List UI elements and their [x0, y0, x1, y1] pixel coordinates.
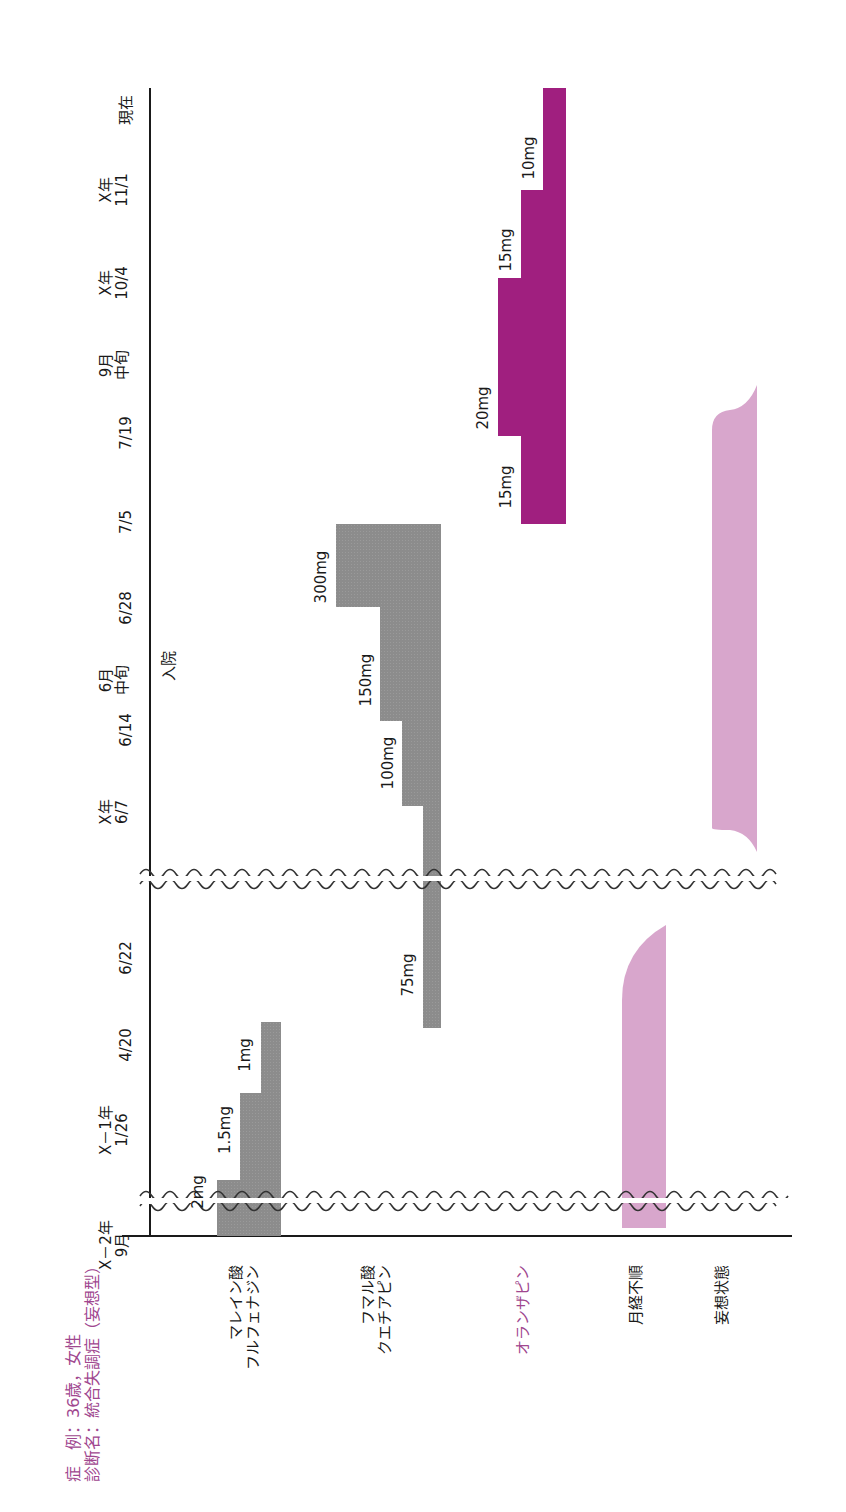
tick-x2-sep: X－2年9月 — [99, 1220, 131, 1270]
dose-label: 300mg — [314, 551, 330, 604]
dose-label: 10mg — [522, 136, 538, 179]
dose-label: 100mg — [381, 737, 397, 790]
row-label-line: フルフェナジン — [245, 1265, 262, 1455]
row-label-line: マレイン酸 — [228, 1265, 245, 1455]
dose-label: 1mg — [238, 1038, 254, 1072]
tick-x1-0126: X－1年1/26 — [99, 1105, 131, 1155]
tick-x-1004: X年10/4 — [99, 266, 131, 300]
tick-sep-mid: 9月中旬 — [99, 350, 131, 380]
row-label-line: 妄想状態 — [714, 1265, 731, 1455]
break-gap-2 — [140, 876, 792, 881]
tick-x-0607: X年6/7 — [99, 799, 131, 824]
row-label-quetiapine: フマル酸 クエチアピン — [360, 1265, 395, 1455]
row-label-olanzapine: オランザピン — [515, 1265, 532, 1455]
break-gap-1 — [140, 1198, 792, 1203]
tick-now: 現在 — [119, 95, 135, 125]
row-label-line: フマル酸 — [360, 1265, 377, 1455]
dose-label: 20mg — [476, 386, 492, 429]
dose-label: 2mg — [191, 1175, 207, 1209]
tick-0719: 7/19 — [119, 416, 135, 450]
tick-0705: 7/5 — [119, 510, 135, 534]
dose-label: 15mg — [499, 465, 515, 508]
delusion-bar — [712, 385, 757, 852]
admission-label: 入院 — [162, 651, 178, 681]
dose-label: 15mg — [499, 228, 515, 271]
diagnosis-line: 診断名：統合失調症（妄想型） — [83, 1258, 102, 1482]
tick-0420: 4/20 — [119, 1028, 135, 1062]
tick-june-mid: 6月中旬 — [99, 665, 131, 695]
row-label-line: 月経不順 — [628, 1265, 645, 1455]
row-label-line: クエチアピン — [377, 1265, 394, 1455]
row-label-menstrual: 月経不順 — [628, 1265, 645, 1455]
dose-label: 1.5mg — [218, 1106, 234, 1154]
tick-0622: 6/22 — [119, 941, 135, 975]
case-title: 症 例：36歳，女性 診断名：統合失調症（妄想型） — [64, 1258, 102, 1482]
tick-x-1101: X年11/1 — [99, 173, 131, 207]
row-label-line: オランザピン — [515, 1265, 532, 1455]
tick-0614: 6/14 — [119, 713, 135, 747]
row-label-delusion: 妄想状態 — [714, 1265, 731, 1455]
row-label-fluphenazine: マレイン酸 フルフェナジン — [228, 1265, 263, 1455]
tick-0628: 6/28 — [119, 591, 135, 625]
dose-label: 75mg — [401, 953, 417, 996]
case-line: 症 例：36歳，女性 — [64, 1258, 83, 1482]
menstrual-bar — [622, 925, 666, 1228]
dose-label: 150mg — [359, 654, 375, 707]
